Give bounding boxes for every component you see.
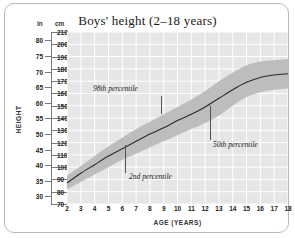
x-tick-label: 16 <box>257 205 264 212</box>
x-tick-label: 7 <box>134 205 138 212</box>
x-tick-label: 15 <box>243 205 250 212</box>
y-tick-label-in: 55 <box>36 115 43 122</box>
x-tick-label: 14 <box>229 205 236 212</box>
y-tick-label-in: 70 <box>36 68 43 75</box>
y-axis-inches: 3035404550556065707580 <box>29 32 51 204</box>
y-tick-label-cm: 90 <box>57 176 64 183</box>
y-tick-label-cm: 70 <box>57 201 64 208</box>
y-axis-title: HEIGHT <box>15 90 22 150</box>
x-tick-label: 13 <box>215 205 222 212</box>
chart-title: Boys' height (2–18 years) <box>5 13 290 29</box>
y-axis-centimeters: 7080901001101201301401501601701801902002… <box>51 32 67 204</box>
x-axis-title: AGE (YEARS) <box>67 219 288 226</box>
y-tick-label-cm: 110 <box>57 151 68 158</box>
y-tick-label-in: 30 <box>36 193 43 200</box>
growth-curve-svg <box>67 32 288 204</box>
x-tick-label: 17 <box>271 205 278 212</box>
leader-line-98th <box>161 96 162 114</box>
x-tick-label: 18 <box>284 205 291 212</box>
y-tick-label-in: 35 <box>36 177 43 184</box>
x-tick-label: 8 <box>148 205 152 212</box>
x-axis-ticks: 23456789101112131415161718 <box>67 205 288 217</box>
y-tick-label-in: 80 <box>36 37 43 44</box>
unit-header-inches: in <box>37 20 43 27</box>
leader-line-50th <box>210 106 211 140</box>
x-tick-label: 3 <box>79 205 83 212</box>
x-tick-label: 12 <box>202 205 209 212</box>
y-tick-label-in: 60 <box>36 99 43 106</box>
x-tick-label: 5 <box>107 205 111 212</box>
y-tick-label-in: 65 <box>36 84 43 91</box>
chart-card: Boys' height (2–18 years) in cm HEIGHT 3… <box>4 3 289 233</box>
x-tick-label: 6 <box>120 205 124 212</box>
y-tick-label-cm: 80 <box>57 188 64 195</box>
unit-header-centimeters: cm <box>55 20 64 27</box>
leader-line-2nd <box>125 145 126 173</box>
annotation-50th-percentile: 50th percentile <box>213 140 258 149</box>
x-tick-label: 11 <box>188 205 195 212</box>
y-tick-label-in: 40 <box>36 162 43 169</box>
x-tick-label: 4 <box>93 205 97 212</box>
x-tick-label: 10 <box>174 205 181 212</box>
x-tick-label: 9 <box>162 205 166 212</box>
y-tick-label-in: 50 <box>36 130 43 137</box>
y-tick-label-in: 75 <box>36 52 43 59</box>
annotation-2nd-percentile: 2nd percentile <box>129 172 172 181</box>
annotation-98th-percentile: 98th percentile <box>93 84 138 93</box>
x-tick-label: 2 <box>65 205 69 212</box>
y-tick-label-in: 45 <box>36 146 43 153</box>
plot-area <box>67 32 288 204</box>
